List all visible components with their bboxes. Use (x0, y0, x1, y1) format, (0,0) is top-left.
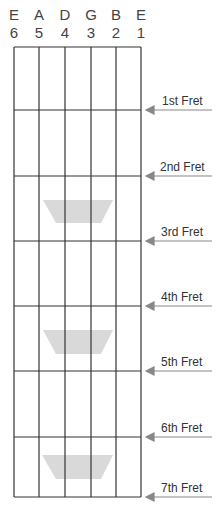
arrow-icon-fret-5 (146, 367, 154, 375)
arrow-icon-fret-3 (146, 237, 154, 245)
fret-label-2: 2nd Fret (160, 160, 205, 174)
fret-label-5: 5th Fret (161, 355, 202, 369)
fret-label-1: 1st Fret (162, 94, 203, 108)
arrow-icon-fret-4 (146, 302, 154, 310)
marker-frets-2-3 (43, 200, 113, 223)
fret-label-6: 6th Fret (161, 421, 202, 435)
marker-frets-6-7 (42, 455, 113, 479)
fretboard-grid (0, 0, 223, 516)
arrow-icon-fret-6 (146, 433, 154, 441)
marker-frets-4-5 (43, 330, 113, 354)
arrow-icon-fret-7 (146, 493, 154, 501)
fret-label-3: 3rd Fret (161, 225, 203, 239)
fret-label-7: 7th Fret (161, 481, 202, 495)
arrow-icon-fret-1 (146, 106, 154, 114)
arrow-icon-fret-2 (146, 172, 154, 180)
fret-label-4: 4th Fret (161, 290, 202, 304)
